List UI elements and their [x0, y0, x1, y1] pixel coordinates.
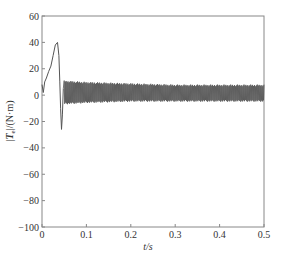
x-tick-label: 0.5	[258, 229, 271, 240]
x-axis-ticks: 00.10.20.30.40.5	[40, 224, 271, 240]
x-tick-label: 0.1	[80, 229, 93, 240]
y-tick-label: 20	[29, 63, 39, 74]
y-tick-label: −100	[18, 222, 39, 233]
torque-chart: 6040200−20−40−60−80−100 00.10.20.30.40.5…	[0, 0, 283, 260]
svg-text:|Te|/(N·m): |Te|/(N·m)	[4, 100, 17, 141]
y-tick-label: −20	[23, 116, 39, 127]
torque-series	[42, 42, 264, 129]
y-tick-label: −60	[23, 169, 39, 180]
y-axis-label: |Te|/(N·m)	[4, 100, 17, 141]
plot-area: 6040200−20−40−60−80−100 00.10.20.30.40.5	[18, 11, 270, 241]
y-tick-label: 60	[29, 11, 39, 22]
y-tick-label: −40	[23, 142, 39, 153]
y-tick-label: 40	[29, 37, 39, 48]
y-axis-ticks: 6040200−20−40−60−80−100	[18, 11, 45, 233]
x-tick-label: 0.3	[169, 229, 182, 240]
y-tick-label: 0	[34, 90, 39, 101]
plot-frame	[42, 16, 264, 227]
x-tick-label: 0.2	[125, 229, 138, 240]
x-tick-label: 0.4	[213, 229, 226, 240]
y-tick-label: −80	[23, 195, 39, 206]
x-axis-label: t/s	[143, 241, 153, 252]
x-tick-label: 0	[40, 229, 45, 240]
